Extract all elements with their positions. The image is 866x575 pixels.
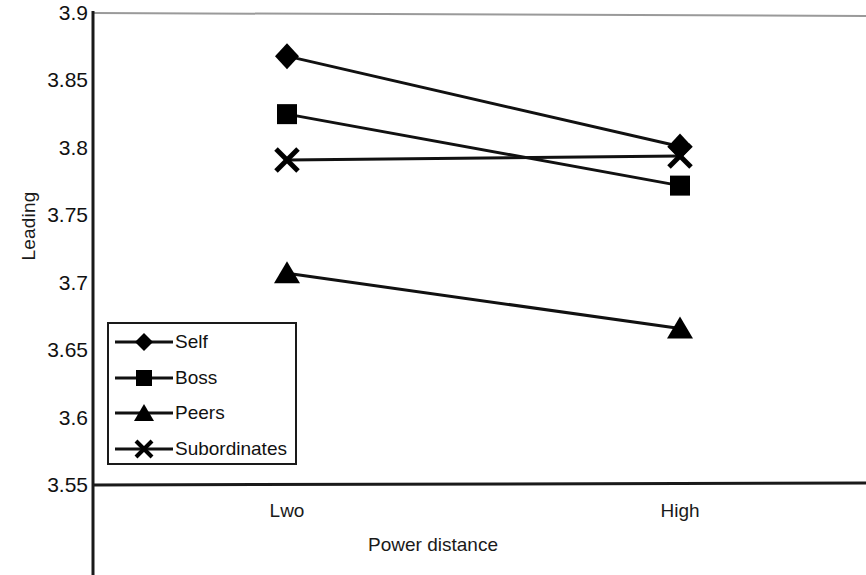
legend-label: Self [175, 331, 208, 353]
frame-top-line [93, 13, 866, 16]
series-line [287, 273, 680, 328]
x-axis-line [93, 483, 866, 485]
plot-area [0, 0, 866, 575]
data-point-marker [274, 261, 300, 283]
legend-item-subordinates: Subordinates [109, 431, 295, 467]
x-tick-label-high: High [660, 500, 699, 522]
series-peers [274, 261, 693, 338]
triangle-marker-icon [113, 401, 175, 425]
legend-label: Peers [175, 402, 225, 424]
legend-label: Boss [175, 367, 217, 389]
chart-legend: Self Boss Peers [107, 322, 297, 465]
cross-marker-icon [113, 437, 175, 461]
x-tick-label-low: Lwo [270, 500, 305, 522]
series-boss [277, 104, 690, 195]
chart-figure: 3.9 3.85 3.8 3.75 3.7 3.65 3.6 3.55 Lead… [0, 0, 866, 575]
data-point-marker [670, 176, 690, 196]
square-marker-icon [113, 366, 175, 390]
series-layer [274, 43, 693, 338]
legend-item-boss: Boss [109, 360, 295, 396]
legend-label: Subordinates [175, 438, 287, 460]
data-point-marker [277, 104, 297, 124]
diamond-marker-icon [113, 330, 175, 354]
series-line [287, 114, 680, 185]
series-line [287, 156, 680, 160]
series-self [275, 43, 692, 159]
legend-item-peers: Peers [109, 396, 295, 432]
x-axis-title: Power distance [0, 534, 866, 556]
legend-item-self: Self [109, 324, 295, 360]
data-point-marker [275, 43, 299, 69]
series-line [287, 56, 680, 146]
